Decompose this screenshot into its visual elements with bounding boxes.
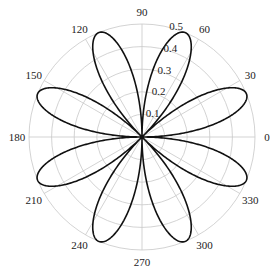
radial-tick-label: 0.5 [169,20,183,32]
angular-tick-label: 30 [245,69,257,81]
radial-tick-label: 0.3 [158,64,172,76]
angular-tick-label: 180 [9,131,26,143]
angular-tick-label: 120 [71,23,88,35]
angular-tick-label: 240 [71,239,88,251]
angular-tick-label: 330 [242,194,259,206]
radial-tick-label: 0.2 [152,85,166,97]
radial-tick-label: 0.4 [163,42,177,54]
angular-tick-label: 0 [264,131,270,143]
radial-tick-label: 0.1 [146,107,160,119]
angular-tick-label: 60 [199,23,211,35]
polar-plot: 0.10.20.30.40.5 030609012015018021024027… [0,0,272,268]
angular-tick-label: 270 [134,256,151,268]
angular-tick-label: 210 [25,194,42,206]
angular-tick-label: 300 [196,239,213,251]
angular-tick-label: 90 [137,6,149,18]
angular-tick-label: 150 [25,69,42,81]
